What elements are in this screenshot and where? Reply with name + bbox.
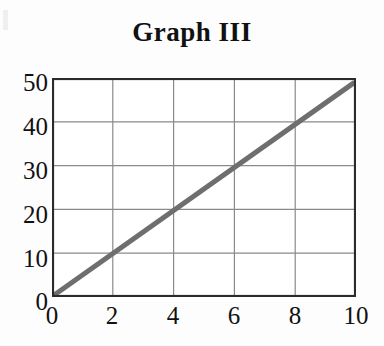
x-tick-label-8: 8: [265, 303, 325, 328]
x-tick-label-0: 0: [22, 303, 82, 328]
x-tick-label-4: 4: [143, 303, 203, 328]
y-tick-label-30: 30: [4, 158, 48, 183]
data-line-series-1: [54, 82, 355, 295]
y-tick-label-20: 20: [4, 202, 48, 227]
y-tick-label-40: 40: [4, 114, 48, 139]
chart-title: Graph III: [0, 17, 384, 48]
plot-canvas: [52, 78, 356, 297]
x-tick-label-10: 10: [326, 303, 384, 328]
plot-area: [52, 78, 356, 297]
x-tick-label-6: 6: [204, 303, 264, 328]
y-tick-label-50: 50: [4, 70, 48, 95]
y-tick-label-10: 10: [4, 246, 48, 271]
chart-figure: Graph III 50 40 30 20 10 0 0 2 4 6 8 10: [0, 0, 384, 346]
x-tick-label-2: 2: [82, 303, 142, 328]
